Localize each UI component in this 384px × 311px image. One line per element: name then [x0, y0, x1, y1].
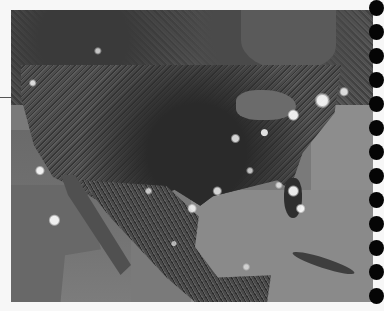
binding-hole [369, 120, 384, 136]
city-lights [11, 10, 373, 302]
binding-hole [369, 192, 384, 208]
binding-hole [369, 0, 384, 16]
binding-hole [369, 240, 384, 256]
binding-hole [369, 96, 384, 112]
binding-hole [369, 24, 384, 40]
binding-hole [369, 288, 384, 304]
binding-hole [369, 144, 384, 160]
binding-hole [369, 264, 384, 280]
binding-hole [369, 216, 384, 232]
night-lights-satellite-photo [11, 10, 373, 302]
binding-hole [369, 72, 384, 88]
binding-hole [369, 168, 384, 184]
binding-hole [369, 48, 384, 64]
